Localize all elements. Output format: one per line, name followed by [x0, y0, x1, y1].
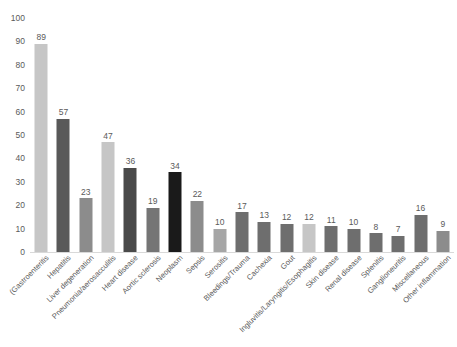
bar-value-label: 16 [416, 204, 425, 213]
bar-value-label: 19 [148, 197, 157, 206]
y-axis-tick-label: 100 [11, 14, 25, 23]
bar-group: 7 [387, 18, 409, 252]
bar[interactable] [280, 224, 293, 252]
bar-value-label: 89 [36, 33, 45, 42]
bar-group: 57 [52, 18, 74, 252]
bar-value-label: 57 [59, 108, 68, 117]
bar-value-label: 10 [215, 218, 224, 227]
y-axis-tick-label: 80 [16, 61, 25, 70]
bar[interactable] [302, 224, 315, 252]
bar[interactable] [258, 222, 271, 252]
bar-group: 19 [142, 18, 164, 252]
bar-value-label: 36 [126, 157, 135, 166]
x-axis-category-label: (Gastroenteritis [8, 254, 50, 296]
bar[interactable] [124, 168, 137, 252]
bar-group: 12 [298, 18, 320, 252]
y-axis-tick-label: 90 [16, 37, 25, 46]
bar-group: 8 [365, 18, 387, 252]
bar-group: 22 [186, 18, 208, 252]
bar[interactable] [191, 201, 204, 252]
bar-group: 23 [75, 18, 97, 252]
bar-value-label: 10 [349, 218, 358, 227]
bar-group: 16 [409, 18, 431, 252]
bar[interactable] [79, 198, 92, 252]
bar-value-label: 12 [304, 213, 313, 222]
bar[interactable] [169, 172, 182, 252]
bar[interactable] [369, 233, 382, 252]
y-axis-tick-label: 70 [16, 84, 25, 93]
y-axis: 0102030405060708090100 [0, 18, 30, 252]
bar-value-label: 7 [396, 225, 401, 234]
bar-group: 17 [231, 18, 253, 252]
bar[interactable] [35, 44, 48, 252]
bar-group: 11 [320, 18, 342, 252]
bar[interactable] [436, 231, 449, 252]
bar-group: 13 [253, 18, 275, 252]
bar-chart: 0102030405060708090100 89572347361934221… [0, 0, 457, 347]
bar-value-label: 17 [237, 202, 246, 211]
bar[interactable] [325, 226, 338, 252]
bar-group: 89 [30, 18, 52, 252]
bar-group: 10 [209, 18, 231, 252]
bar-group: 34 [164, 18, 186, 252]
bar[interactable] [213, 229, 226, 252]
bar-group: 12 [275, 18, 297, 252]
bar-value-label: 11 [327, 216, 336, 225]
bar-value-label: 9 [440, 220, 445, 229]
bars-container: 89572347361934221017131212111087169 [30, 18, 454, 252]
bar[interactable] [57, 119, 70, 252]
y-axis-tick-label: 60 [16, 107, 25, 116]
bar-group: 9 [432, 18, 454, 252]
bar-value-label: 34 [170, 162, 179, 171]
bar[interactable] [146, 208, 159, 252]
x-axis-category-label: Gout [279, 254, 296, 271]
bar-value-label: 13 [260, 211, 269, 220]
bar[interactable] [392, 236, 405, 252]
bar[interactable] [102, 142, 115, 252]
bar-value-label: 12 [282, 213, 291, 222]
bar-value-label: 22 [193, 190, 202, 199]
y-axis-tick-label: 50 [16, 131, 25, 140]
bar[interactable] [414, 215, 427, 252]
bar[interactable] [235, 212, 248, 252]
x-axis-labels: (GastroenteritisHepatitisLiver degenerat… [30, 254, 454, 347]
bar-value-label: 8 [374, 223, 379, 232]
bar-value-label: 47 [103, 132, 112, 141]
x-axis-category-label: Ingluvitis/Laryngitis/Esophagitis [238, 254, 318, 334]
bar-group: 10 [342, 18, 364, 252]
y-axis-tick-label: 10 [16, 224, 25, 233]
bar-group: 36 [119, 18, 141, 252]
bar[interactable] [347, 229, 360, 252]
y-axis-tick-label: 0 [20, 248, 25, 257]
bar-group: 47 [97, 18, 119, 252]
y-axis-tick-label: 30 [16, 178, 25, 187]
y-axis-tick-label: 20 [16, 201, 25, 210]
x-axis-baseline [30, 252, 454, 253]
bar-value-label: 23 [81, 188, 90, 197]
y-axis-tick-label: 40 [16, 154, 25, 163]
